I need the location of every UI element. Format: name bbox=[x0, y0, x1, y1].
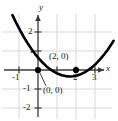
y-axis bbox=[35, 15, 41, 117]
y-tick-label-minus2: -2 bbox=[23, 103, 31, 112]
y-tick-label-1: 1 bbox=[29, 46, 34, 55]
parabola-curve bbox=[12, 15, 113, 76]
annotation-point-two-zero: (2, 0) bbox=[49, 52, 69, 61]
x-axis-label: x bbox=[106, 64, 110, 73]
y-tick-label-2: 2 bbox=[28, 27, 33, 36]
leader-line-origin bbox=[40, 72, 47, 86]
y-tick-label-minus1: -1 bbox=[23, 84, 31, 93]
x-tick-label-minus1: -1 bbox=[12, 73, 20, 82]
graph-figure: y x -1 2 3 2 1 -1 -2 (2, 0) (0, 0) bbox=[0, 0, 118, 121]
x-tick-label-3: 3 bbox=[92, 73, 97, 82]
point-marker-origin bbox=[35, 67, 41, 73]
annotation-point-origin: (0, 0) bbox=[43, 86, 63, 95]
x-tick-label-2: 2 bbox=[73, 73, 78, 82]
y-axis-label: y bbox=[39, 3, 43, 12]
